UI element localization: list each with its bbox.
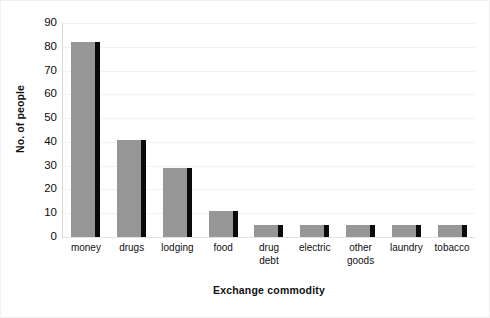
y-tick-label: 10: [31, 207, 57, 219]
x-axis-tick-labels: moneydrugslodgingfooddrugdebtelectricoth…: [63, 242, 475, 278]
bar-shadow: [233, 211, 238, 237]
y-axis-title-label: No. of people: [14, 85, 26, 153]
y-axis-tick-labels: 0102030405060708090: [27, 23, 57, 237]
bar-shadow: [141, 140, 146, 237]
bar-group: [155, 23, 201, 237]
x-tick-label-line: food: [200, 242, 246, 255]
y-tick-label: 80: [31, 41, 57, 53]
x-tick-label-line: tobacco: [429, 242, 475, 255]
x-tick-label: money: [63, 242, 109, 255]
bar-group: [246, 23, 292, 237]
bar-shadow: [278, 225, 283, 237]
bar: [71, 42, 95, 237]
bar-shadow: [324, 225, 329, 237]
x-axis-title: Exchange commodity: [63, 284, 475, 296]
x-tick-label: food: [200, 242, 246, 255]
bar-group: [383, 23, 429, 237]
x-tick-label: drugs: [109, 242, 155, 255]
bar-group: [292, 23, 338, 237]
bar: [254, 225, 278, 237]
bar: [209, 211, 233, 237]
bar-shadow: [416, 225, 421, 237]
gridline-0: [63, 237, 475, 238]
y-tick-label: 20: [31, 183, 57, 195]
x-tick-label: drugdebt: [246, 242, 292, 267]
x-tick-label-line: goods: [338, 255, 384, 268]
bar-shadow: [95, 42, 100, 237]
bar: [163, 168, 187, 237]
x-tick-label-line: drugs: [109, 242, 155, 255]
x-tick-label-line: drug: [246, 242, 292, 255]
bar-group: [109, 23, 155, 237]
bar-shadow: [370, 225, 375, 237]
bar: [392, 225, 416, 237]
bar-shadow: [462, 225, 467, 237]
x-tick-label-line: debt: [246, 255, 292, 268]
y-tick-label: 30: [31, 160, 57, 172]
x-tick-label-line: laundry: [383, 242, 429, 255]
bar-group: [200, 23, 246, 237]
x-tick-label: lodging: [155, 242, 201, 255]
bar: [346, 225, 370, 237]
bar-group: [338, 23, 384, 237]
x-tick-label-line: money: [63, 242, 109, 255]
x-tick-label: electric: [292, 242, 338, 255]
x-tick-label-line: other: [338, 242, 384, 255]
y-tick-label: 0: [31, 231, 57, 243]
y-tick-label: 60: [31, 88, 57, 100]
x-tick-label: othergoods: [338, 242, 384, 267]
bar-chart: No. of people 0102030405060708090 moneyd…: [0, 0, 490, 318]
x-tick-label: laundry: [383, 242, 429, 255]
bar-group: [63, 23, 109, 237]
bar: [300, 225, 324, 237]
bar-group: [429, 23, 475, 237]
bar: [438, 225, 462, 237]
y-tick-label: 70: [31, 65, 57, 77]
bar: [117, 140, 141, 237]
x-tick-label-line: lodging: [155, 242, 201, 255]
bars-layer: [63, 23, 475, 237]
y-tick-label: 50: [31, 112, 57, 124]
y-tick-label: 90: [31, 17, 57, 29]
y-tick-label: 40: [31, 136, 57, 148]
bar-shadow: [187, 168, 192, 237]
x-tick-label-line: electric: [292, 242, 338, 255]
x-tick-label: tobacco: [429, 242, 475, 255]
